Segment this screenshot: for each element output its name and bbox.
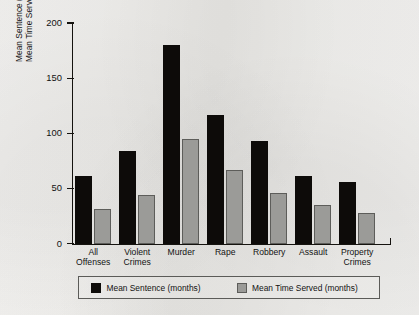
legend-swatch-gray-square	[237, 283, 247, 293]
legend-label-mean-time-served: Mean Time Served (months)	[252, 283, 358, 293]
x-axis-label-line-1: Property	[325, 247, 389, 257]
legend-swatch-black-square	[91, 283, 101, 293]
x-axis-label-line-2: Crimes	[105, 257, 169, 267]
x-axis-label: PropertyCrimes	[325, 247, 389, 267]
x-axis-category-labels: AllOffensesViolentCrimesMurderRapeRobber…	[0, 0, 419, 315]
legend: Mean Sentence (months) Mean Time Served …	[78, 276, 380, 299]
legend-label-mean-sentence: Mean Sentence (months)	[107, 283, 201, 293]
x-axis-label-line-2: Crimes	[325, 257, 389, 267]
legend-entry-mean-sentence: Mean Sentence (months)	[91, 283, 201, 293]
bar-chart: Mean Sentence (months) vs. Mean Time Ser…	[0, 0, 419, 315]
legend-entry-mean-time-served: Mean Time Served (months)	[237, 283, 358, 293]
